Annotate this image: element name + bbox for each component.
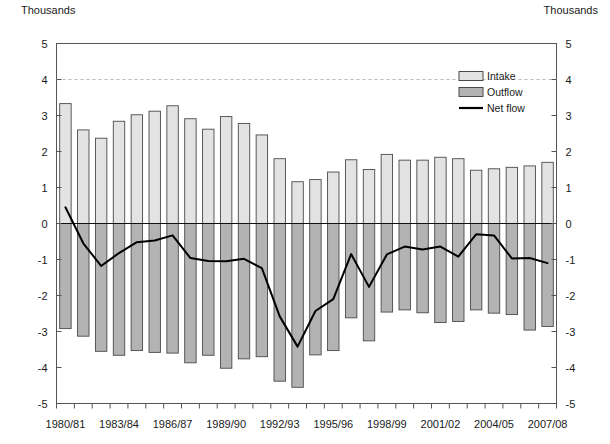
- intake-bar: [292, 182, 303, 224]
- outflow-bar: [453, 224, 464, 322]
- outflow-bar: [60, 224, 71, 329]
- y-tick-label-right: 5: [566, 38, 572, 50]
- intake-bar: [238, 123, 249, 223]
- legend-item: Outflow: [459, 86, 523, 98]
- outflow-bar: [435, 224, 446, 323]
- x-tick-label: 1992/93: [260, 418, 300, 430]
- outflow-bar: [417, 224, 428, 313]
- y-tick-label-right: 1: [566, 182, 572, 194]
- x-tick-label: 2001/02: [421, 418, 461, 430]
- y-tick-label-right: 4: [566, 74, 572, 86]
- x-axis: 1980/811983/841986/871989/901992/931995/…: [46, 404, 568, 430]
- outflow-bar: [185, 224, 196, 363]
- outflow-bar: [274, 224, 285, 382]
- legend-item: Intake: [459, 70, 516, 82]
- outflow-bar: [524, 224, 535, 331]
- y-tick-label-left: -1: [38, 254, 48, 266]
- outflow-bar: [381, 224, 392, 313]
- legend-label: Intake: [487, 70, 516, 82]
- intake-bar: [167, 106, 178, 224]
- outflow-bar: [220, 224, 231, 369]
- outflow-bar: [113, 224, 124, 356]
- y-tick-label-left: -5: [38, 398, 48, 410]
- y-tick-label-left: -2: [38, 290, 48, 302]
- intake-bar: [363, 170, 374, 224]
- outflow-bar: [95, 224, 106, 352]
- outflow-bar: [238, 224, 249, 359]
- x-tick-label: 1986/87: [153, 418, 193, 430]
- intake-bar: [328, 172, 339, 223]
- intake-bar: [381, 154, 392, 223]
- intake-bar: [185, 119, 196, 224]
- y-tick-label-right: 0: [566, 218, 572, 230]
- outflow-bar: [256, 224, 267, 357]
- intake-bar: [453, 159, 464, 224]
- intake-bar: [149, 111, 160, 223]
- y-tick-label-right: -4: [566, 362, 576, 374]
- chart-legend: IntakeOutflowNet flow: [459, 70, 525, 114]
- intake-bar: [220, 117, 231, 224]
- intake-bar: [60, 104, 71, 224]
- intake-bar: [488, 169, 499, 224]
- y-tick-label-left: -3: [38, 326, 48, 338]
- y-tick-label-right: -5: [566, 398, 576, 410]
- chart-container: Thousands Thousands -5-4-3-2-1012345 -5-…: [0, 0, 610, 444]
- legend-swatch: [459, 72, 483, 81]
- outflow-bar: [203, 224, 214, 356]
- intake-bar: [435, 157, 446, 223]
- x-tick-label: 2007/08: [528, 418, 568, 430]
- y-tick-label-right: 2: [566, 146, 572, 158]
- intake-bar: [310, 180, 321, 224]
- legend-label: Outflow: [487, 86, 523, 98]
- bar-line-combo-chart: -5-4-3-2-1012345 -5-4-3-2-1012345 1980/8…: [0, 0, 610, 444]
- legend-label: Net flow: [487, 102, 525, 114]
- y-tick-label-left: -4: [38, 362, 48, 374]
- intake-bar: [131, 115, 142, 224]
- outflow-bar: [399, 224, 410, 310]
- intake-bar: [470, 170, 481, 223]
- outflow-bar: [345, 224, 356, 318]
- outflow-bar: [149, 224, 160, 353]
- outflow-bar: [470, 224, 481, 310]
- x-tick-label: 1989/90: [206, 418, 246, 430]
- intake-bar: [203, 129, 214, 223]
- outflow-bar: [506, 224, 517, 315]
- intake-bar: [113, 121, 124, 223]
- y-tick-label-right: -3: [566, 326, 576, 338]
- intake-bar: [256, 135, 267, 224]
- intake-bar: [399, 160, 410, 223]
- outflow-bar: [542, 224, 553, 327]
- y-tick-label-right: 3: [566, 110, 572, 122]
- x-tick-label: 1983/84: [99, 418, 139, 430]
- outflow-bar: [78, 224, 89, 337]
- y-tick-label-left: 4: [41, 74, 47, 86]
- x-tick-label: 2004/05: [474, 418, 514, 430]
- outflow-bar: [310, 224, 321, 355]
- y-tick-label-left: 0: [41, 218, 47, 230]
- y-tick-label-right: -1: [566, 254, 576, 266]
- legend-swatch: [459, 88, 483, 97]
- y-tick-label-right: -2: [566, 290, 576, 302]
- y-tick-label-left: 1: [41, 182, 47, 194]
- intake-bar: [524, 166, 535, 224]
- outflow-bar: [292, 224, 303, 388]
- intake-bar: [345, 160, 356, 224]
- y-tick-label-left: 3: [41, 110, 47, 122]
- intake-bar: [78, 130, 89, 224]
- outflow-bar: [167, 224, 178, 354]
- x-tick-label: 1998/99: [367, 418, 407, 430]
- y-tick-label-left: 5: [41, 38, 47, 50]
- outflow-bar: [363, 224, 374, 341]
- intake-bar: [542, 162, 553, 223]
- y-tick-label-left: 2: [41, 146, 47, 158]
- intake-bar: [417, 160, 428, 223]
- x-tick-label: 1980/81: [46, 418, 86, 430]
- intake-bar: [506, 167, 517, 223]
- intake-bar: [95, 138, 106, 223]
- x-tick-label: 1995/96: [313, 418, 353, 430]
- intake-bar: [274, 159, 285, 224]
